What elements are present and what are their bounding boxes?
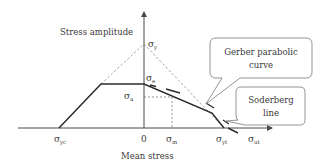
yield-line-compression: [101, 44, 144, 84]
gerber-label-line2: curve: [249, 60, 273, 70]
x-axis-label: Mean stress: [121, 151, 174, 161]
svg-text:e: e: [152, 78, 155, 84]
svg-text:yt: yt: [221, 139, 228, 146]
svg-text:yc: yc: [59, 139, 66, 146]
svg-text:y: y: [153, 44, 158, 51]
soderberg-label-line1: Soderberg: [248, 95, 294, 105]
sigma-ut-label: σ ut: [248, 134, 261, 145]
svg-text:m: m: [172, 139, 178, 145]
soderberg-callout: Soderberg line: [226, 87, 305, 125]
goodman-diagram: Gerber parabolic curve Soderberg line St…: [0, 0, 326, 165]
svg-text:ut: ut: [254, 139, 261, 145]
soderberg-label-line2: line: [263, 108, 279, 118]
safe-region-envelope: [59, 84, 224, 128]
svg-text:a: a: [130, 96, 134, 102]
y-axis-label: Stress amplitude: [60, 27, 133, 37]
gerber-label-line1: Gerber parabolic: [224, 47, 298, 57]
sigma-m-label: σ m: [166, 134, 178, 145]
sigma-yc-label: σ yc: [54, 134, 66, 146]
sigma-e-label: σ e: [146, 73, 155, 84]
sigma-yt-label: σ yt: [216, 134, 228, 146]
sigma-a-label: σ a: [124, 91, 134, 102]
origin-label: 0: [141, 134, 147, 144]
sigma-y-label: σ y: [148, 39, 158, 51]
